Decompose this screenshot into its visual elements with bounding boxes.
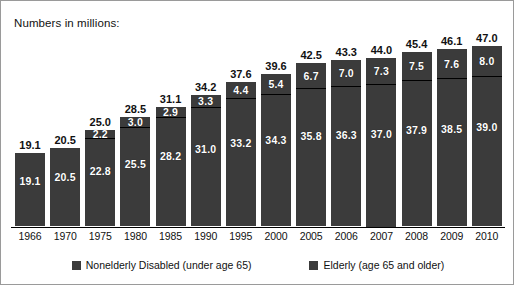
bar-column[interactable]: 37.64.433.2 [226, 31, 256, 226]
bar-segment-nonelderly[interactable]: 31.0 [191, 108, 221, 227]
x-axis-tick-label: 2008 [402, 230, 432, 242]
bar-stack: 20.5 [50, 148, 80, 227]
bar-total-label: 28.5 [125, 103, 146, 115]
bar-segment-value-elderly: 7.3 [374, 65, 389, 77]
bar-segment-value-elderly: 8.0 [479, 55, 494, 67]
bar-column[interactable]: 31.12.928.2 [156, 31, 186, 226]
x-axis-tick-label: 2000 [261, 230, 291, 242]
bar-total-label: 34.2 [195, 81, 216, 93]
bar-segment-elderly[interactable]: 4.4 [226, 82, 256, 99]
bar-segment-elderly[interactable]: 7.0 [331, 60, 361, 87]
bar-total-label: 44.0 [371, 44, 392, 56]
bar-column[interactable]: 47.08.039.0 [472, 31, 502, 226]
bar-segment-value-nonelderly: 36.3 [336, 129, 357, 141]
bar-stack: 4.433.2 [226, 82, 256, 226]
bar-stack: 8.039.0 [472, 46, 502, 226]
bar-segment-nonelderly[interactable]: 28.2 [156, 118, 186, 226]
legend-item-elderly: Elderly (age 65 and older) [309, 259, 444, 271]
bar-segment-value-nonelderly: 37.9 [406, 124, 427, 136]
bar-segment-value-elderly: 7.0 [339, 67, 354, 79]
bar-segment-value-nonelderly: 39.0 [476, 121, 497, 133]
bar-column[interactable]: 43.37.036.3 [331, 31, 361, 226]
legend-item-nonelderly: Nonelderly Disabled (under age 65) [72, 259, 252, 271]
bar-segment-value-nonelderly: 22.8 [90, 165, 111, 177]
bar-segment-nonelderly[interactable]: 22.8 [85, 139, 115, 226]
bar-segment-nonelderly[interactable]: 33.2 [226, 99, 256, 226]
bar-segment-elderly[interactable]: 5.4 [261, 74, 291, 95]
bar-segment-value-nonelderly: 38.5 [441, 123, 462, 135]
bar-segment-nonelderly[interactable]: 37.9 [402, 81, 432, 226]
bar-segment-value-elderly: 4.4 [233, 84, 248, 96]
bar-segment-elderly[interactable]: 2.2 [85, 130, 115, 138]
bar-segment-value-nonelderly: 34.3 [265, 134, 286, 146]
x-axis-tick-label: 1980 [120, 230, 150, 242]
bar-segment-nonelderly[interactable]: 34.3 [261, 95, 291, 226]
legend-swatch-icon [72, 261, 81, 270]
bar-segment-elderly[interactable]: 7.3 [366, 58, 396, 86]
bar-stack: 7.638.5 [437, 49, 467, 226]
bar-stack: 3.331.0 [191, 95, 221, 226]
bar-segment-value-nonelderly: 25.5 [125, 158, 146, 170]
bar-group: 19.119.120.520.525.02.222.828.53.025.531… [15, 31, 502, 226]
bar-total-label: 37.6 [230, 68, 251, 80]
bar-column[interactable]: 46.17.638.5 [437, 31, 467, 226]
x-axis-tick-label: 1990 [191, 230, 221, 242]
bar-total-label: 47.0 [476, 32, 497, 44]
bar-total-label: 46.1 [441, 35, 462, 47]
bar-segment-value-nonelderly: 35.8 [301, 130, 322, 142]
bar-segment-elderly[interactable]: 3.3 [191, 95, 221, 108]
bar-segment-nonelderly[interactable]: 25.5 [120, 128, 150, 226]
bar-stack: 3.025.5 [120, 117, 150, 226]
x-axis-tick-label: 1985 [156, 230, 186, 242]
x-axis-tick-label: 1970 [50, 230, 80, 242]
bar-stack: 5.434.3 [261, 74, 291, 226]
bar-column[interactable]: 19.119.1 [15, 31, 45, 226]
bar-segment-value-elderly: 2.9 [163, 106, 178, 118]
bar-segment-elderly[interactable]: 7.6 [437, 49, 467, 78]
bar-segment-nonelderly[interactable]: 35.8 [296, 89, 326, 226]
bar-segment-value-nonelderly: 19.1 [19, 175, 40, 187]
bar-segment-nonelderly[interactable]: 37.0 [366, 85, 396, 227]
bar-segment-value-elderly: 5.4 [268, 78, 283, 90]
bar-segment-value-nonelderly: 28.2 [160, 150, 181, 162]
bar-segment-value-nonelderly: 20.5 [55, 171, 76, 183]
bar-column[interactable]: 25.02.222.8 [85, 31, 115, 226]
x-axis-tick-label: 2010 [472, 230, 502, 242]
bar-column[interactable]: 42.56.735.8 [296, 31, 326, 226]
bar-column[interactable]: 34.23.331.0 [191, 31, 221, 226]
x-axis-tick-label: 1995 [226, 230, 256, 242]
bar-total-label: 43.3 [336, 46, 357, 58]
bar-stack: 6.735.8 [296, 63, 326, 226]
bar-stack: 7.036.3 [331, 60, 361, 226]
bar-segment-elderly[interactable]: 7.5 [402, 52, 432, 81]
bar-stack: 7.337.0 [366, 58, 396, 227]
x-axis-tick-label: 2006 [331, 230, 361, 242]
bar-segment-value-elderly: 3.0 [128, 116, 143, 128]
x-axis-tick-label: 2009 [437, 230, 467, 242]
bar-segment-nonelderly[interactable]: 39.0 [472, 77, 502, 226]
bar-segment-value-elderly: 7.6 [444, 58, 459, 70]
bar-total-label: 45.4 [406, 38, 427, 50]
bar-segment-nonelderly[interactable]: 36.3 [331, 87, 361, 226]
bar-segment-elderly[interactable]: 3.0 [120, 117, 150, 128]
bar-total-label: 39.6 [265, 60, 286, 72]
bar-segment-value-nonelderly: 33.2 [230, 137, 251, 149]
bar-column[interactable]: 28.53.025.5 [120, 31, 150, 226]
legend-label-elderly: Elderly (age 65 and older) [323, 259, 444, 271]
chart-caption: Numbers in millions: [14, 17, 120, 29]
bar-column[interactable]: 44.07.337.0 [366, 31, 396, 226]
bar-segment-nonelderly[interactable]: 19.1 [15, 153, 45, 226]
bar-column[interactable]: 45.47.537.9 [402, 31, 432, 226]
bar-segment-nonelderly[interactable]: 38.5 [437, 79, 467, 226]
bar-stack: 2.222.8 [85, 130, 115, 226]
bar-column[interactable]: 20.520.5 [50, 31, 80, 226]
x-axis-line [11, 227, 505, 228]
bar-segment-elderly[interactable]: 6.7 [296, 63, 326, 89]
bar-segment-elderly[interactable]: 2.9 [156, 107, 186, 118]
bar-segment-elderly[interactable]: 8.0 [472, 46, 502, 77]
bar-segment-nonelderly[interactable]: 20.5 [50, 148, 80, 227]
plot-area: 19.119.120.520.525.02.222.828.53.025.531… [15, 31, 502, 226]
bar-column[interactable]: 39.65.434.3 [261, 31, 291, 226]
bar-total-label: 20.5 [54, 134, 75, 146]
x-axis-tick-label: 1966 [15, 230, 45, 242]
